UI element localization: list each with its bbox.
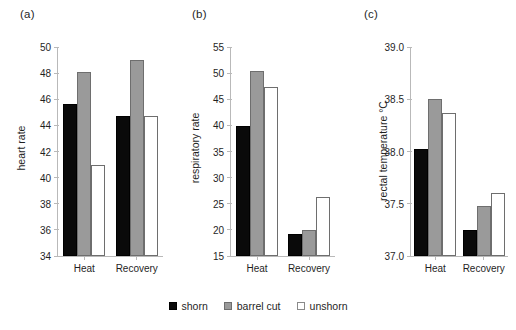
panel-b-bar-groups: HeatRecovery xyxy=(231,47,335,256)
bar-barrel xyxy=(477,206,491,256)
x-axis-label: Recovery xyxy=(460,263,509,274)
bar-shorn xyxy=(288,234,302,256)
chart-legend: shornbarrel cutunshorn xyxy=(0,300,516,312)
panel-c-y-tick-label: 37.5 xyxy=(385,199,404,209)
bar-shorn xyxy=(116,116,130,256)
panel-c-y-tick-label: 39.0 xyxy=(385,43,404,53)
bar-shorn xyxy=(414,149,428,256)
panel-c-y-tick-label: 38.5 xyxy=(385,95,404,105)
x-tick-mark xyxy=(483,256,484,260)
bar-unshorn xyxy=(316,197,330,256)
panel-c-bar-groups: HeatRecovery xyxy=(411,47,508,256)
bar-barrel xyxy=(77,72,91,256)
bar-group: Recovery xyxy=(283,47,335,256)
bar-barrel xyxy=(250,71,264,256)
bar-group: Recovery xyxy=(460,47,509,256)
panel-c-y-tick-label: 37.0 xyxy=(385,252,404,262)
panel-b-y-tick-label: 50 xyxy=(213,69,224,79)
bar-shorn xyxy=(63,104,77,256)
panel-a-y-tick-label: 38 xyxy=(40,199,51,209)
panel-b-y-tick-label: 30 xyxy=(213,173,224,183)
panel-b-y-tick-label: 55 xyxy=(213,43,224,53)
bar-group: Recovery xyxy=(111,47,164,256)
panel-a-y-tick-label: 44 xyxy=(40,121,51,131)
legend-swatch-barrel xyxy=(224,302,232,310)
panel-a-y-tick-label: 36 xyxy=(40,225,51,235)
panel-b-plot-area: 152025303540455055 HeatRecovery xyxy=(230,47,335,257)
panel-a-y-tick-label: 34 xyxy=(40,252,51,262)
panel-a-y-tick-label: 40 xyxy=(40,173,51,183)
bar-unshorn xyxy=(144,116,158,256)
bar-unshorn xyxy=(491,193,505,256)
legend-label: unshorn xyxy=(310,300,348,312)
x-tick-mark xyxy=(84,256,85,260)
x-tick-mark xyxy=(136,256,137,260)
panel-a-plot-area: 343638404244464850 HeatRecovery xyxy=(57,47,163,257)
x-tick-mark xyxy=(309,256,310,260)
legend-item-barrel: barrel cut xyxy=(224,300,281,312)
x-tick-mark xyxy=(257,256,258,260)
bar-shorn xyxy=(236,126,250,256)
panel-b-y-tick-label: 25 xyxy=(213,199,224,209)
x-axis-label: Heat xyxy=(411,263,460,274)
legend-swatch-unshorn xyxy=(297,302,305,310)
legend-label: shorn xyxy=(182,300,208,312)
bar-barrel xyxy=(302,230,316,256)
panel-b-tag: (b) xyxy=(192,8,207,20)
legend-item-unshorn: unshorn xyxy=(297,300,348,312)
panel-b-y-tick-label: 45 xyxy=(213,95,224,105)
bar-unshorn xyxy=(264,87,278,256)
panel-b-y-tick-label: 35 xyxy=(213,147,224,157)
x-axis-label: Recovery xyxy=(283,263,335,274)
panel-a: (a) heart rate 343638404244464850 HeatRe… xyxy=(0,0,172,292)
bar-group: Heat xyxy=(58,47,111,256)
bar-shorn xyxy=(463,230,477,256)
panel-a-bar-groups: HeatRecovery xyxy=(58,47,163,256)
panel-a-y-tick-label: 48 xyxy=(40,69,51,79)
panel-a-y-tick-label: 46 xyxy=(40,95,51,105)
x-tick-mark xyxy=(435,256,436,260)
panel-b: (b) respiratory rate 152025303540455055 … xyxy=(172,0,344,292)
panel-b-y-tick-label: 40 xyxy=(213,121,224,131)
panel-b-y-tick-label: 15 xyxy=(213,252,224,262)
panels-row: (a) heart rate 343638404244464850 HeatRe… xyxy=(0,0,516,292)
bar-barrel xyxy=(130,60,144,256)
panel-b-y-tick-label: 20 xyxy=(213,225,224,235)
panel-c: (c) rectal temperature °C 37.037.538.038… xyxy=(344,0,516,292)
panel-b-y-axis-title: respiratory rate xyxy=(189,83,201,213)
bar-barrel xyxy=(428,99,442,256)
panel-c-plot-area: 37.037.538.038.539.0 HeatRecovery xyxy=(410,47,508,257)
panel-a-tag: (a) xyxy=(20,8,35,20)
x-axis-label: Heat xyxy=(58,263,111,274)
panel-a-y-tick-label: 50 xyxy=(40,43,51,53)
legend-item-shorn: shorn xyxy=(169,300,208,312)
panel-c-tag: (c) xyxy=(364,8,378,20)
x-axis-label: Heat xyxy=(231,263,283,274)
bar-group: Heat xyxy=(231,47,283,256)
figure-three-panel-bar-charts: (a) heart rate 343638404244464850 HeatRe… xyxy=(0,0,516,330)
panel-a-y-axis-title: heart rate xyxy=(15,83,27,213)
bar-unshorn xyxy=(91,165,105,256)
legend-swatch-shorn xyxy=(169,302,177,310)
panel-a-y-tick-label: 42 xyxy=(40,147,51,157)
x-axis-label: Recovery xyxy=(111,263,164,274)
bar-group: Heat xyxy=(411,47,460,256)
panel-c-y-tick-label: 38.0 xyxy=(385,147,404,157)
bar-unshorn xyxy=(442,113,456,256)
legend-label: barrel cut xyxy=(237,300,281,312)
